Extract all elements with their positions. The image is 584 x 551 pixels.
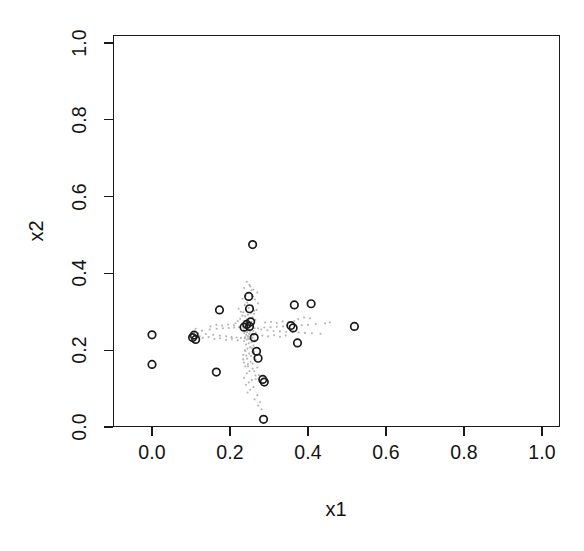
data-point <box>209 325 211 327</box>
data-layer <box>113 35 560 427</box>
data-point <box>252 337 254 339</box>
data-point <box>243 361 245 363</box>
data-point <box>242 311 244 313</box>
data-point <box>246 331 248 333</box>
data-point <box>301 324 303 326</box>
data-point <box>257 327 259 329</box>
data-point <box>225 339 227 341</box>
data-point <box>205 333 207 335</box>
data-point <box>285 335 287 337</box>
x-tick-0.2 <box>229 427 230 436</box>
data-point <box>247 391 249 393</box>
data-point <box>239 318 241 320</box>
data-point <box>231 338 233 340</box>
data-point <box>237 320 239 322</box>
data-point <box>248 333 250 335</box>
data-point <box>216 306 224 314</box>
data-point <box>213 368 221 376</box>
data-point <box>282 320 284 322</box>
data-point <box>250 355 252 357</box>
y-tick-1.0 <box>104 42 113 43</box>
data-point <box>241 298 243 300</box>
x-tick-0.0 <box>151 427 152 436</box>
y-tick-label-0.2: 0.2 <box>68 336 91 364</box>
data-point <box>264 322 266 324</box>
y-tick-label-0.4: 0.4 <box>68 260 91 288</box>
data-point <box>208 336 210 338</box>
data-point <box>254 374 256 376</box>
data-point <box>248 370 250 372</box>
data-point <box>247 348 249 350</box>
y-tick-label-1.0: 1.0 <box>68 29 91 57</box>
data-point <box>315 323 317 325</box>
y-tick-label-0.6: 0.6 <box>68 183 91 211</box>
data-point <box>249 389 251 391</box>
data-point <box>201 330 203 332</box>
data-point <box>319 333 321 335</box>
data-point <box>256 394 258 396</box>
data-point <box>246 302 248 304</box>
data-point <box>261 408 263 410</box>
data-point <box>236 336 238 338</box>
y-tick-0.0 <box>104 426 113 427</box>
data-point <box>260 328 262 330</box>
data-point <box>248 342 250 344</box>
x-tick-0.6 <box>385 427 386 436</box>
y-tick-label-0.0: 0.0 <box>68 413 91 441</box>
data-point <box>307 324 309 326</box>
data-point <box>246 305 254 313</box>
y-tick-0.8 <box>104 119 113 120</box>
data-point <box>260 416 268 424</box>
data-point <box>248 353 250 355</box>
y-tick-label-0.8: 0.8 <box>68 106 91 134</box>
data-point <box>247 314 249 316</box>
data-point <box>219 337 221 339</box>
data-point <box>254 398 256 400</box>
data-point <box>248 381 250 383</box>
data-point <box>246 358 248 360</box>
data-point <box>270 326 272 328</box>
data-point <box>267 335 269 337</box>
data-point <box>244 337 246 339</box>
data-point <box>233 326 235 328</box>
data-point <box>244 365 246 367</box>
data-point <box>252 345 254 347</box>
data-point <box>255 378 257 380</box>
x-tick-label-0.2: 0.2 <box>216 441 244 464</box>
data-point <box>285 331 287 333</box>
data-point <box>222 327 224 329</box>
data-point <box>252 368 254 370</box>
data-point <box>228 327 230 329</box>
data-point <box>279 330 281 332</box>
data-point <box>324 322 326 324</box>
data-point <box>249 331 251 333</box>
data-point <box>209 328 211 330</box>
data-point <box>293 320 295 322</box>
data-point <box>282 325 284 327</box>
data-point <box>294 339 302 347</box>
data-point <box>244 315 246 317</box>
data-point <box>256 366 258 368</box>
data-point <box>297 318 299 320</box>
data-points-svg <box>113 35 560 427</box>
data-point <box>261 335 263 337</box>
data-point <box>148 331 156 339</box>
data-point <box>243 377 245 379</box>
data-point <box>247 335 249 337</box>
data-point <box>227 323 229 325</box>
data-point <box>233 324 235 326</box>
data-point <box>216 328 218 330</box>
data-point <box>307 300 315 308</box>
x-tick-1.0 <box>541 427 542 436</box>
data-point <box>291 301 299 309</box>
data-point <box>249 285 251 287</box>
y-tick-0.6 <box>104 196 113 197</box>
data-point <box>148 361 156 369</box>
data-point <box>250 361 252 363</box>
data-point <box>254 298 256 300</box>
data-point <box>259 401 261 403</box>
data-point <box>249 241 257 249</box>
data-point <box>251 379 253 381</box>
data-point <box>240 311 242 313</box>
data-point <box>245 384 247 386</box>
